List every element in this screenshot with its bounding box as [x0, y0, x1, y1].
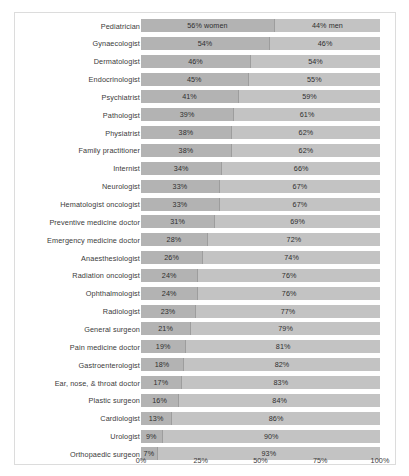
bar-track: 26%74% [141, 251, 380, 264]
bar-value-women: 17% [153, 378, 168, 387]
bar-value-men: 76% [282, 271, 297, 280]
bar-value-women: 9% [146, 432, 157, 441]
chart-row: Dermatologist46%54% [15, 55, 395, 68]
bar-segment-women: 39% [141, 108, 234, 121]
bar-track: 46%54% [141, 55, 380, 68]
bar-segment-women: 24% [141, 269, 198, 282]
chart-row: Urologist9%90% [15, 430, 395, 443]
chart-row: Internist34%66% [15, 162, 395, 175]
bar-value-men: 59% [302, 92, 317, 101]
bar-track: 38%62% [141, 126, 380, 139]
x-axis: 0%25%50%75%100% [141, 456, 380, 465]
bar-value-women: 23% [161, 307, 176, 316]
bar-segment-men: 77% [196, 305, 380, 318]
chart-row: Cardiologist13%86% [15, 412, 395, 425]
chart-row: Ophthalmologist24%76% [15, 287, 395, 300]
stacked-bar-chart-plot-area: Pediatrician56% women44% menGynaecologis… [15, 13, 395, 464]
bar-segment-men: 67% [220, 198, 380, 211]
x-axis-tick-label: 50% [253, 456, 268, 465]
bar-segment-women: 28% [141, 233, 208, 246]
chart-row: Neurologist33%67% [15, 180, 395, 193]
bar-segment-men: 90% [163, 430, 380, 443]
category-label: Orthopaedic surgeon [20, 449, 140, 458]
bar-segment-women: 23% [141, 305, 196, 318]
bar-value-men: 46% [318, 39, 333, 48]
bar-value-women: 26% [164, 253, 179, 262]
chart-row: Family practitioner38%62% [15, 144, 395, 157]
bar-value-men: 90% [264, 432, 279, 441]
bar-track: 56% women44% men [141, 19, 380, 32]
bar-value-women: 33% [173, 182, 188, 191]
bar-track: 33%67% [141, 198, 380, 211]
category-label: Anaesthesiologist [20, 253, 140, 262]
bar-value-men: 54% [308, 57, 323, 66]
bar-segment-women: 41% [141, 90, 239, 103]
bar-segment-men: 82% [184, 358, 380, 371]
bar-segment-men: 76% [198, 269, 380, 282]
category-label: Pathologist [20, 110, 140, 119]
bar-value-men: 77% [281, 307, 296, 316]
bar-track: 23%77% [141, 305, 380, 318]
category-label: Plastic surgeon [20, 396, 140, 405]
category-label: Hematologist oncologist [20, 200, 140, 209]
category-label: Preventive medicine doctor [20, 217, 140, 226]
category-label: Family practitioner [20, 146, 140, 155]
bar-segment-men: 72% [208, 233, 380, 246]
x-axis-tick-label: 25% [193, 456, 208, 465]
chart-row: Gastroenterologist18%82% [15, 358, 395, 371]
bar-value-men: 79% [278, 324, 293, 333]
bar-segment-men: 44% men [275, 19, 380, 32]
bar-segment-men: 79% [191, 322, 380, 335]
bar-track: 21%79% [141, 322, 380, 335]
bar-value-women: 13% [149, 414, 164, 423]
chart-row: General surgeon21%79% [15, 322, 395, 335]
bar-segment-men: 55% [249, 73, 380, 86]
bar-value-men: 76% [282, 289, 297, 298]
chart-row: Pathologist39%61% [15, 108, 395, 121]
bar-track: 16%84% [141, 394, 380, 407]
bar-value-women: 31% [170, 217, 185, 226]
category-label: Endocrinologist [20, 75, 140, 84]
bar-segment-men: 86% [172, 412, 380, 425]
chart-row: Radiologist23%77% [15, 305, 395, 318]
bar-track: 9%90% [141, 430, 380, 443]
bar-segment-women: 16% [141, 394, 179, 407]
category-label: Internist [20, 164, 140, 173]
x-axis-tick-label: 0% [136, 456, 147, 465]
bar-value-women: 41% [182, 92, 197, 101]
chart-row: Pediatrician56% women44% men [15, 19, 395, 32]
bar-segment-men: 59% [239, 90, 380, 103]
bar-value-men: 67% [293, 200, 308, 209]
bar-segment-men: 84% [179, 394, 380, 407]
bar-value-women: 33% [173, 200, 188, 209]
bar-value-women: 28% [167, 235, 182, 244]
bar-value-men: 44% men [312, 21, 343, 30]
bar-segment-men: 74% [203, 251, 380, 264]
bar-segment-women: 17% [141, 376, 182, 389]
chart-figure: Pediatrician56% women44% menGynaecologis… [14, 12, 396, 465]
bar-value-men: 62% [299, 146, 314, 155]
bar-track: 24%76% [141, 287, 380, 300]
bar-value-men: 74% [284, 253, 299, 262]
bar-value-men: 66% [294, 164, 309, 173]
bar-value-women: 38% [179, 146, 194, 155]
category-label: Urologist [20, 432, 140, 441]
bar-value-women: 34% [174, 164, 189, 173]
bar-value-women: 24% [162, 271, 177, 280]
category-label: Cardiologist [20, 414, 140, 423]
bar-track: 41%59% [141, 90, 380, 103]
category-label: Pain medicine doctor [20, 342, 140, 351]
bar-track: 31%69% [141, 215, 380, 228]
bar-value-women: 24% [162, 289, 177, 298]
bar-value-women: 18% [155, 360, 170, 369]
bar-track: 54%46% [141, 37, 380, 50]
chart-row: Psychiatrist41%59% [15, 90, 395, 103]
bar-value-men: 62% [299, 128, 314, 137]
bar-segment-men: 67% [220, 180, 380, 193]
category-label: Emergency medicine doctor [20, 235, 140, 244]
chart-row: Endocrinologist45%55% [15, 73, 395, 86]
bar-segment-women: 46% [141, 55, 251, 68]
category-label: Gynaecologist [20, 39, 140, 48]
bar-segment-women: 26% [141, 251, 203, 264]
bar-segment-women: 34% [141, 162, 222, 175]
